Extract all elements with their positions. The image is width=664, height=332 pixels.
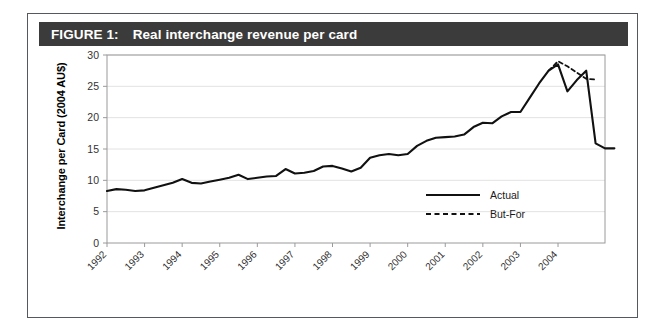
x-axis-tick-label: 2002 <box>461 248 485 272</box>
x-axis-tick-label: 1995 <box>198 248 222 272</box>
x-axis-tick-label: 1999 <box>348 248 372 272</box>
x-axis-tick-label: 1997 <box>273 248 297 272</box>
figure-title-bar: FIGURE 1: Real interchange revenue per c… <box>39 22 628 46</box>
legend-label-actual: Actual <box>490 189 519 201</box>
legend-label-but-for: But-For <box>490 208 526 220</box>
y-axis-tick-label: 25 <box>87 80 99 92</box>
chart-area: Interchange per Card (2004 AU$) 05101520… <box>28 48 639 316</box>
line-chart-plot: 0510152025301992199319941995199619971998… <box>28 48 639 316</box>
y-axis-tick-label: 15 <box>87 143 99 155</box>
x-axis-tick-label: 1996 <box>235 248 259 272</box>
x-axis-tick-label: 2003 <box>498 248 522 272</box>
figure-container: FIGURE 1: Real interchange revenue per c… <box>27 13 638 318</box>
series-line-actual <box>107 64 614 191</box>
x-axis-tick-label: 1994 <box>160 248 184 272</box>
figure-number-label: FIGURE 1: <box>51 27 119 42</box>
y-axis-tick-label: 20 <box>87 111 99 123</box>
x-axis-tick-label: 2004 <box>536 248 560 272</box>
figure-title-text: Real interchange revenue per card <box>133 27 358 42</box>
x-axis-tick-label: 2001 <box>423 248 447 272</box>
series-line-but-for <box>549 61 596 79</box>
x-axis-tick-label: 2000 <box>386 248 410 272</box>
y-axis-tick-label: 0 <box>93 237 99 249</box>
y-axis-tick-label: 5 <box>93 205 99 217</box>
x-axis-tick-label: 1993 <box>122 248 146 272</box>
x-axis-tick-label: 1992 <box>85 248 109 272</box>
x-axis-tick-label: 1998 <box>310 248 334 272</box>
y-axis-tick-label: 10 <box>87 174 99 186</box>
y-axis-tick-label: 30 <box>87 49 99 61</box>
